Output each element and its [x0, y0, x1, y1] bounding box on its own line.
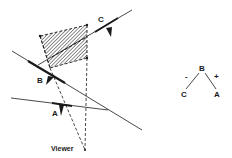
tree-right-sign: + — [214, 72, 219, 81]
plane-c-normal-arrow-icon — [106, 27, 112, 37]
diagram-canvas: C B A Viewer B - + C A — [0, 0, 232, 158]
tree-left-branch — [186, 73, 199, 89]
plane-c-label: C — [98, 15, 104, 24]
bsp-tree: B - + C A — [181, 64, 220, 99]
plane-b-normal-arrow-icon — [46, 76, 54, 85]
viewer-point — [84, 149, 86, 151]
bsp-diagram: C B A Viewer B - + C A — [0, 0, 232, 158]
plane-b-label: B — [37, 76, 43, 85]
viewer-label: Viewer — [51, 145, 74, 152]
tree-left-sign: - — [185, 72, 188, 81]
tree-left-child-node: C — [181, 90, 187, 99]
tree-right-child-node: A — [214, 90, 220, 99]
plane-b-line — [12, 51, 142, 130]
tree-root-node: B — [199, 64, 205, 73]
hatched-region — [39, 24, 88, 68]
plane-a-label: A — [52, 109, 58, 118]
plane-a-normal-arrow-icon — [59, 105, 64, 116]
